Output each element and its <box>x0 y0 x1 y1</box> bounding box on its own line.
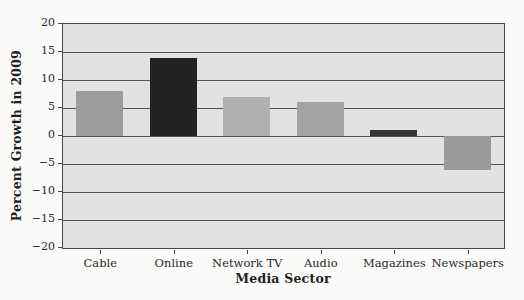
y-tick-mark <box>58 79 62 80</box>
y-tick-label: −10 <box>7 184 55 198</box>
bar-newspapers <box>444 136 491 170</box>
x-tick-mark <box>247 250 248 254</box>
y-tick-mark <box>58 51 62 52</box>
y-tick-label: −20 <box>7 240 55 254</box>
x-axis-title: Media Sector <box>62 271 504 286</box>
y-tick-label: 10 <box>7 72 55 86</box>
y-tick-mark <box>58 163 62 164</box>
bar-chart-figure: Percent Growth in 2009 20151050−5−10−15−… <box>0 0 524 300</box>
bar-cable <box>76 91 123 136</box>
y-tick-label: 5 <box>7 100 55 114</box>
bar-network-tv <box>223 97 270 136</box>
y-tick-label: 15 <box>7 44 55 58</box>
gridline-y-10 <box>63 80 504 81</box>
gridline-y-15 <box>63 52 504 53</box>
gridline-y--15 <box>63 220 504 221</box>
x-tick-mark <box>100 250 101 254</box>
y-tick-label: 20 <box>7 16 55 30</box>
plot-area <box>62 23 505 249</box>
y-tick-mark <box>58 247 62 248</box>
x-tick-label-newspapers: Newspapers <box>418 256 518 270</box>
x-tick-mark <box>174 250 175 254</box>
y-tick-mark <box>58 107 62 108</box>
y-tick-label: 0 <box>7 128 55 142</box>
x-tick-mark <box>468 250 469 254</box>
bar-online <box>150 58 197 136</box>
gridline-y--5 <box>63 164 504 165</box>
y-tick-label: −15 <box>7 212 55 226</box>
x-tick-mark <box>321 250 322 254</box>
gridline-y-0 <box>63 136 504 137</box>
y-tick-label: −5 <box>7 156 55 170</box>
gridline-y--10 <box>63 192 504 193</box>
y-tick-mark <box>58 191 62 192</box>
y-tick-mark <box>58 135 62 136</box>
gridline-y-5 <box>63 108 504 109</box>
bar-magazines <box>370 130 417 136</box>
y-tick-mark <box>58 23 62 24</box>
y-tick-mark <box>58 219 62 220</box>
x-tick-mark <box>394 250 395 254</box>
bar-audio <box>297 102 344 136</box>
